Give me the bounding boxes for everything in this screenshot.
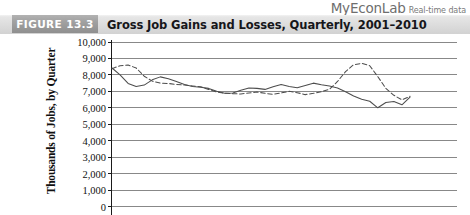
y-tick-label: 10,000 [77,37,106,48]
line-chart-svg [108,40,458,215]
figure-title: Gross Job Gains and Losses, Quarterly, 2… [107,15,427,34]
real-time-data-label: Real-time data [409,6,466,15]
y-tick-label: 2,000 [82,168,106,179]
y-tick-label: 5,000 [82,119,106,130]
chart-plot-area [108,40,458,215]
series-line-gross-job-losses [112,63,410,100]
series-line-gross-job-gains [112,68,410,108]
myeconlab-branding: MyEconLab Real-time data [331,0,466,15]
y-tick-label: 9,000 [82,53,106,64]
y-tick-label: 4,000 [82,135,106,146]
y-tick-label: 3,000 [82,152,106,163]
y-axis-title: Thousands of Jobs, by Quarter [45,26,57,215]
y-tick-label: 8,000 [82,69,106,80]
y-tick-label: 7,000 [82,86,106,97]
figure-screenshot: MyEconLab Real-time data FIGURE 13.3 Gro… [0,0,470,215]
myeconlab-logo-text: MyEconLab [331,0,406,16]
y-tick-label: 1,000 [82,185,106,196]
y-tick-label: 0 [101,201,106,212]
y-axis-tick-labels: 10,0009,0008,0007,0006,0005,0004,0003,00… [60,40,106,215]
y-tick-label: 6,000 [82,102,106,113]
